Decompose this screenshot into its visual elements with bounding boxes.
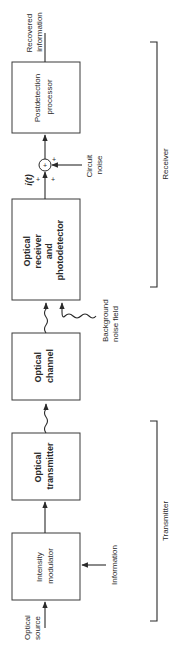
optical-channel-block: Optical channel	[12, 333, 80, 400]
optical-source-label: Optical source	[23, 613, 42, 640]
signal-label-i-t: i(t)	[24, 174, 34, 186]
intensity-modulator-block: Intensity modulator	[12, 533, 80, 600]
plus-sign-left: +	[36, 176, 40, 183]
recovered-information-label: Recovered information	[25, 12, 44, 53]
optical-receiver-block: Optical receiver and photodetector	[12, 199, 80, 300]
plus-sign-right: +	[51, 176, 55, 183]
transmitter-bracket	[150, 421, 157, 621]
optical-wave-arrow-2	[45, 303, 48, 333]
optical-transmitter-block: Optical transmitter	[12, 433, 80, 500]
plus-sign-top: +	[52, 156, 56, 163]
transmitter-label: Transmitter	[161, 501, 170, 541]
background-noise-label: Background noise field	[101, 297, 120, 342]
circuit-noise-label: Circuit noise	[85, 153, 104, 178]
optical-wave-arrow-1	[45, 404, 48, 433]
postdetection-processor-block: Postdetection processor	[12, 62, 80, 133]
receiver-bracket	[150, 42, 157, 287]
information-label: Information	[110, 545, 119, 585]
background-noise-arrow	[62, 303, 96, 318]
summing-junction: +	[39, 159, 51, 171]
diagram-canvas: Optical source Intensity modulator Infor…	[0, 0, 180, 645]
svg-text:+: +	[43, 162, 47, 169]
receiver-label: Receiver	[161, 148, 170, 180]
